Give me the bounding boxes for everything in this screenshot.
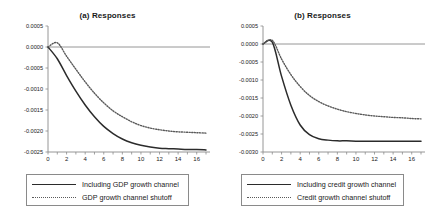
chart-b-axes <box>263 26 425 152</box>
legend-label: Credit growth channel shutoff <box>297 193 390 202</box>
legend-item: Credit growth channel shutoff <box>242 191 405 204</box>
x-tick-label: 14 <box>175 156 182 162</box>
y-tick-label: -0.0025 <box>24 149 43 155</box>
y-tick-label: -0.0005 <box>24 65 43 71</box>
x-tick-label: 14 <box>390 156 397 162</box>
chart-b-x-ticks: 0246810121416 <box>261 152 421 162</box>
panel-a-legend: Including GDP growth channel GDP growth … <box>26 174 189 206</box>
x-tick-label: 8 <box>121 156 125 162</box>
x-tick-label: 16 <box>193 156 200 162</box>
y-tick-label: -0.0010 <box>24 86 43 92</box>
panel-b-plot: 0.00050.0000-0.0005-0.0010-0.0015-0.0020… <box>215 22 430 167</box>
panel-b-title: (b) Responses <box>215 11 430 20</box>
y-tick-label: -0.0005 <box>239 59 258 65</box>
panel-b-legend: Including credit growth channel Credit g… <box>241 174 404 206</box>
y-tick-label: 0.0005 <box>241 23 258 29</box>
x-tick-label: 4 <box>299 156 303 162</box>
x-tick-label: 2 <box>65 156 69 162</box>
legend-item: GDP growth channel shutoff <box>27 191 190 204</box>
legend-line-solid-icon <box>32 180 76 190</box>
y-tick-label: -0.0030 <box>239 149 258 155</box>
y-tick-label: -0.0025 <box>239 131 258 137</box>
x-tick-label: 0 <box>261 156 265 162</box>
chart-a-series-dotted <box>48 43 206 134</box>
chart-b-series-dotted <box>263 40 421 119</box>
x-tick-label: 10 <box>138 156 145 162</box>
y-tick-label: -0.0015 <box>239 95 258 101</box>
legend-item: Including GDP growth channel <box>27 178 190 191</box>
y-tick-label: -0.0015 <box>24 107 43 113</box>
x-tick-label: 8 <box>336 156 340 162</box>
panel-a-plot: 0.00050.0000-0.0005-0.0010-0.0015-0.0020… <box>0 22 215 167</box>
x-tick-label: 16 <box>408 156 415 162</box>
x-tick-label: 0 <box>46 156 50 162</box>
legend-label: Including credit growth channel <box>297 180 396 189</box>
chart-a-axes <box>48 26 210 152</box>
y-tick-label: -0.0020 <box>239 113 258 119</box>
y-tick-label: -0.0020 <box>24 128 43 134</box>
legend-line-dotted-icon <box>32 193 76 203</box>
chart-a-svg: 0.00050.0000-0.0005-0.0010-0.0015-0.0020… <box>0 22 215 167</box>
y-tick-label: 0.0000 <box>26 44 43 50</box>
legend-line-solid-icon <box>247 180 291 190</box>
chart-b-svg: 0.00050.0000-0.0005-0.0010-0.0015-0.0020… <box>215 22 430 167</box>
x-tick-label: 10 <box>353 156 360 162</box>
chart-b-series-solid <box>263 40 421 141</box>
chart-b-y-ticks: 0.00050.0000-0.0005-0.0010-0.0015-0.0020… <box>239 23 263 155</box>
panel-b: (b) Responses 0.00050.0000-0.0005-0.0010… <box>215 0 430 213</box>
x-tick-label: 4 <box>84 156 88 162</box>
chart-a-y-ticks: 0.00050.0000-0.0005-0.0010-0.0015-0.0020… <box>24 23 48 155</box>
panel-a: (a) Responses 0.00050.0000-0.0005-0.0010… <box>0 0 215 213</box>
y-tick-label: 0.0000 <box>241 41 258 47</box>
chart-a-x-ticks: 0246810121416 <box>46 152 206 162</box>
y-tick-label: -0.0010 <box>239 77 258 83</box>
y-tick-label: 0.0005 <box>26 23 43 29</box>
x-tick-label: 12 <box>371 156 378 162</box>
x-tick-label: 6 <box>102 156 106 162</box>
legend-line-dotted-icon <box>247 193 291 203</box>
x-tick-label: 12 <box>156 156 163 162</box>
panel-a-title: (a) Responses <box>0 11 215 20</box>
legend-label: GDP growth channel shutoff <box>82 193 172 202</box>
legend-label: Including GDP growth channel <box>82 180 179 189</box>
x-tick-label: 6 <box>317 156 321 162</box>
figure-responses: (a) Responses 0.00050.0000-0.0005-0.0010… <box>0 0 430 213</box>
legend-item: Including credit growth channel <box>242 178 405 191</box>
x-tick-label: 2 <box>280 156 284 162</box>
